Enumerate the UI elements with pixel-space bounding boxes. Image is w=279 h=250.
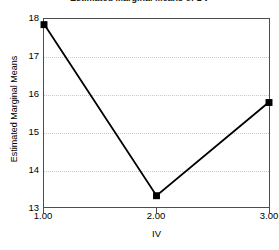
y-axis-title: Estimated Marginal Means <box>9 29 19 189</box>
x-tick-label: 3.00 <box>244 210 279 221</box>
y-tick-label: 18 <box>18 13 39 23</box>
y-tick-label: 16 <box>18 89 39 99</box>
chart-screenshot: Estimated Marginal Means of DV 18 17 16 … <box>0 0 279 250</box>
data-point-marker <box>266 99 273 106</box>
y-tick-label: 15 <box>18 127 39 137</box>
x-axis-title: IV <box>43 228 270 239</box>
y-tick-label: 14 <box>18 165 39 175</box>
x-tick-label: 1.00 <box>18 210 68 221</box>
x-tick-label: 2.00 <box>131 210 181 221</box>
series-line <box>44 25 268 196</box>
data-point-marker <box>153 192 160 199</box>
y-tick-label: 17 <box>18 51 39 61</box>
data-point-marker <box>41 21 48 28</box>
plot-area <box>43 18 270 208</box>
series-plot <box>44 19 269 207</box>
